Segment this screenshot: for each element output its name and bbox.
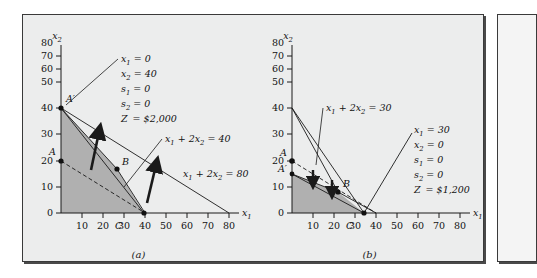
x-ticks-a — [82, 213, 229, 218]
y-tick-labels-a: 0 10 20 30 40 50 60 70 80 — [41, 37, 53, 218]
vertex-dot-a-a — [58, 158, 63, 163]
annotation-block-a: x1= 0 x2= 40 s1= 0 s2= 0 Z= $2,000 — [120, 53, 177, 124]
vertex-label-c-b: C — [346, 220, 354, 231]
svg-text:0: 0 — [278, 207, 284, 218]
svg-text:x2= 40: x2= 40 — [121, 68, 157, 82]
svg-text:80: 80 — [223, 220, 235, 231]
vertex-label-b-a: B — [121, 156, 129, 167]
svg-text:70: 70 — [433, 220, 445, 231]
y-tick-labels-b: 0 10 20 30 40 50 60 70 80 — [272, 37, 284, 218]
figure-frame: 0 10 20 30 40 50 60 70 80 — [22, 14, 484, 262]
constraint-label-30-b: x1 + 2x2 = 30 — [326, 102, 392, 116]
gradient-arrow-2-a — [147, 165, 156, 203]
vertex-label-a-prime-a: A′ — [65, 93, 76, 104]
svg-text:70: 70 — [272, 50, 284, 61]
annotation-block-b: x1= 30 x2= 0 s1= 0 s2= 0 Z= $1,200 — [413, 124, 470, 195]
y-ticks-b — [287, 56, 292, 213]
y-ticks-a — [56, 56, 61, 213]
svg-text:20: 20 — [97, 220, 109, 231]
svg-text:40: 40 — [370, 220, 382, 231]
svg-text:10: 10 — [76, 220, 88, 231]
x-tick-labels-a: 10 20 30 40 50 60 70 80 — [76, 220, 235, 231]
svg-text:s2= 0: s2= 0 — [414, 169, 443, 183]
svg-text:50: 50 — [41, 76, 53, 87]
leader-line-30-b — [316, 108, 323, 165]
svg-text:60: 60 — [272, 63, 284, 74]
svg-text:60: 60 — [181, 220, 193, 231]
svg-text:10: 10 — [41, 181, 53, 192]
svg-text:x1= 0: x1= 0 — [121, 53, 151, 67]
vertex-dot-a-prime-a — [58, 105, 63, 110]
svg-text:60: 60 — [41, 63, 53, 74]
vertex-label-c-a: C — [115, 220, 123, 231]
panel-b: 0 10 20 30 40 50 60 70 80 — [254, 15, 485, 263]
panel-b-plot: 0 10 20 30 40 50 60 70 80 — [254, 15, 485, 247]
vertex-label-a-a: A — [48, 146, 56, 157]
svg-text:50: 50 — [160, 220, 172, 231]
svg-text:40: 40 — [272, 102, 284, 113]
adjacent-page-frame — [497, 14, 537, 262]
vertex-dot-b-a — [114, 166, 119, 171]
leader-line-annotation-a — [66, 59, 118, 105]
panel-a-caption: (a) — [23, 249, 254, 260]
vertex-dot-c-b — [361, 210, 366, 215]
leader-line-40-a — [124, 139, 162, 187]
x-axis-label-b: x1 — [473, 207, 483, 221]
panel-a: 0 10 20 30 40 50 60 70 80 — [23, 15, 254, 263]
svg-text:10: 10 — [307, 220, 319, 231]
svg-text:x1= 30: x1= 30 — [414, 124, 450, 138]
svg-text:20: 20 — [328, 220, 340, 231]
constraint-label-80-a: x1 + 2x2 = 80 — [183, 168, 249, 182]
panel-a-plot: 0 10 20 30 40 50 60 70 80 — [23, 15, 254, 247]
svg-text:40: 40 — [139, 220, 151, 231]
constraint-label-40-a: x1 + 2x2 = 40 — [165, 133, 231, 147]
svg-text:50: 50 — [391, 220, 403, 231]
svg-text:s1= 0: s1= 0 — [121, 83, 150, 97]
svg-text:Z= $1,200: Z= $1,200 — [413, 184, 470, 195]
vertex-dot-a-prime-b — [290, 172, 295, 177]
svg-text:s2= 0: s2= 0 — [121, 98, 150, 112]
leader-line-c-annotation-b — [364, 133, 412, 213]
svg-text:Z= $2,000: Z= $2,000 — [120, 113, 177, 124]
y-axis-label-a: x2 — [52, 30, 62, 44]
svg-text:x2= 0: x2= 0 — [414, 139, 444, 153]
svg-text:s1= 0: s1= 0 — [414, 154, 443, 168]
svg-text:50: 50 — [272, 76, 284, 87]
vertex-label-b-b: B — [342, 178, 350, 189]
vertex-dot-a-b — [289, 158, 295, 164]
svg-text:60: 60 — [412, 220, 424, 231]
vertex-dot-c-a — [141, 210, 146, 215]
svg-text:80: 80 — [454, 220, 466, 231]
y-axis-label-b: x2 — [283, 30, 293, 44]
vertex-label-a-prime-b: A′ — [277, 163, 288, 174]
svg-text:10: 10 — [272, 181, 284, 192]
svg-text:0: 0 — [47, 207, 53, 218]
vertex-dot-b-b — [335, 189, 340, 194]
x-ticks-b — [313, 213, 460, 218]
svg-text:30: 30 — [41, 128, 53, 139]
x-axis-label-a: x1 — [242, 207, 252, 221]
svg-text:40: 40 — [41, 102, 53, 113]
svg-text:70: 70 — [202, 220, 214, 231]
vertex-label-a-b: A — [279, 147, 287, 158]
svg-text:30: 30 — [272, 128, 284, 139]
x-tick-labels-b: 10 20 30 40 50 60 70 80 — [307, 220, 466, 231]
panel-b-caption: (b) — [254, 249, 485, 260]
svg-text:70: 70 — [41, 50, 53, 61]
